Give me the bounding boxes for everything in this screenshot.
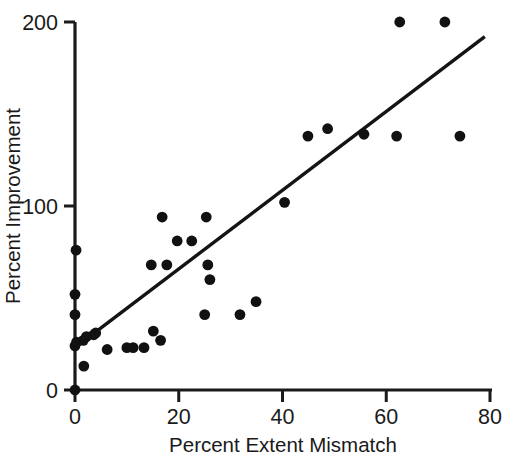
data-point xyxy=(148,326,159,337)
data-point xyxy=(139,342,150,353)
data-point xyxy=(157,212,168,223)
scatter-plot-figure: 0100200 020406080 Percent Extent Mismatc… xyxy=(0,0,514,459)
data-point xyxy=(394,17,405,28)
x-tick-label: 80 xyxy=(478,405,502,429)
data-point xyxy=(186,236,197,247)
trendline-group xyxy=(75,37,485,348)
data-point xyxy=(391,131,402,142)
data-point xyxy=(70,309,81,320)
y-tick-label: 100 xyxy=(22,195,58,219)
data-point-group xyxy=(70,17,466,396)
x-tick-label: 20 xyxy=(167,405,191,429)
data-point xyxy=(202,259,213,270)
data-point xyxy=(204,274,215,285)
y-axis-label: Percent Improvement xyxy=(1,108,24,304)
data-point xyxy=(455,131,466,142)
data-point xyxy=(251,296,262,307)
x-axis-label: Percent Extent Mismatch xyxy=(169,433,397,456)
data-point xyxy=(128,342,139,353)
data-point xyxy=(172,236,183,247)
data-point xyxy=(146,259,157,270)
data-point xyxy=(161,259,172,270)
data-point xyxy=(303,131,314,142)
data-point xyxy=(71,245,82,256)
data-point xyxy=(359,129,370,140)
x-tick-label: 60 xyxy=(374,405,398,429)
data-point xyxy=(70,289,81,300)
data-point xyxy=(199,309,210,320)
data-point xyxy=(235,309,246,320)
data-point xyxy=(78,361,89,372)
regression-line xyxy=(75,37,485,348)
y-axis-tick-labels: 0100200 xyxy=(22,11,58,403)
x-axis-tick-labels: 020406080 xyxy=(69,405,502,429)
y-tick-label: 200 xyxy=(22,11,58,35)
y-tick-label: 0 xyxy=(46,379,58,403)
data-point xyxy=(439,17,450,28)
x-tick-label: 40 xyxy=(271,405,295,429)
x-axis-ticks xyxy=(75,390,490,402)
data-point xyxy=(102,344,113,355)
data-point xyxy=(322,123,333,134)
x-tick-label: 0 xyxy=(69,405,81,429)
data-point xyxy=(279,197,290,208)
data-point xyxy=(70,385,81,396)
data-point xyxy=(90,328,101,339)
data-point xyxy=(201,212,212,223)
data-point xyxy=(155,335,166,346)
y-axis-ticks xyxy=(64,22,75,390)
chart-canvas: 0100200 020406080 Percent Extent Mismatc… xyxy=(0,0,514,459)
